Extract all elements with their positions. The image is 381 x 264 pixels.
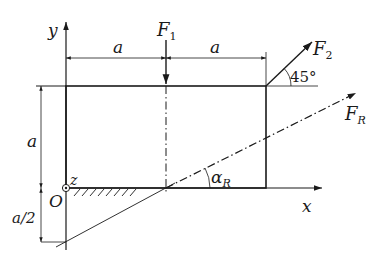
x-axis-label: x bbox=[302, 196, 312, 216]
origin-label: O bbox=[49, 191, 63, 211]
fr-label: FR bbox=[344, 103, 366, 127]
f2-label: F2 bbox=[312, 38, 333, 62]
z-axis-dot bbox=[65, 187, 67, 189]
fr-line-of-action bbox=[166, 93, 356, 188]
z-axis-label: z bbox=[69, 172, 78, 188]
f1-label: F1 bbox=[156, 19, 177, 43]
angle-alpha-r-arc bbox=[205, 168, 210, 188]
y-axis-label: y bbox=[47, 20, 58, 40]
dimension-label-left-below: a/2 bbox=[12, 209, 36, 227]
f2-angle-label: 45° bbox=[290, 68, 317, 86]
ground-hatching bbox=[74, 189, 136, 196]
construction-line bbox=[56, 183, 175, 247]
dimension-label-top-right: a bbox=[210, 37, 220, 57]
dimension-label-left-height: a bbox=[27, 131, 37, 151]
dimension-label-top-left: a bbox=[113, 37, 123, 57]
force-diagram: y x z O a a a a/2 F1 F2 45° FR αR bbox=[0, 0, 381, 264]
alpha-r-label: αR bbox=[211, 167, 231, 190]
